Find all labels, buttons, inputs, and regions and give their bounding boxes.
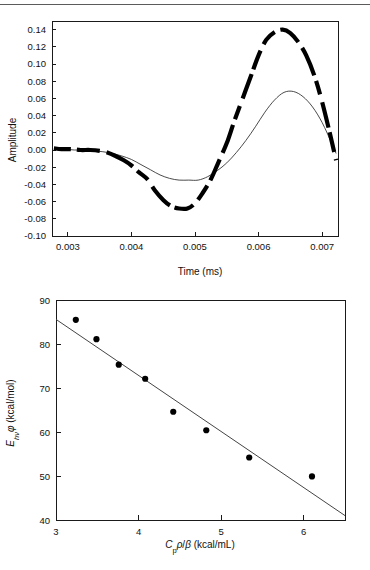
bottom-chart-ticks [56,300,304,520]
bottom-chart-xaxis-title: Cpρ/β (kcal/mL) [165,539,235,555]
top-chart-tick-labels: -0.10-0.08-0.06-0.04-0.020.000.020.040.0… [24,24,334,252]
svg-text:0.14: 0.14 [28,24,47,35]
bottom-chart-yaxis-title: Ehνφ (kcal/mol) [5,379,21,446]
figure-amplitude-vs-time: -0.10-0.08-0.06-0.04-0.020.000.020.040.0… [0,10,370,285]
svg-text:0.003: 0.003 [56,241,80,252]
svg-text:-0.04: -0.04 [24,179,46,190]
svg-text:0.12: 0.12 [28,41,47,52]
svg-text:-0.10: -0.10 [24,230,46,241]
top-chart-curves [54,30,336,209]
svg-text:6: 6 [301,526,306,537]
figure-page: -0.10-0.08-0.06-0.04-0.020.000.020.040.0… [0,0,370,570]
bottom-chart-tick-labels: 4050607080903456 [39,295,306,537]
svg-text:5: 5 [218,526,223,537]
svg-text:3: 3 [53,526,58,537]
top-chart-axes [52,21,338,236]
svg-text:-0.06: -0.06 [24,196,46,207]
svg-text:60: 60 [39,427,50,438]
chart-ehvphi-vs-cprhobeta: 4050607080903456 Cpρ/β (kcal/mL) Ehνφ (k… [0,288,370,563]
top-chart-ticks [52,30,322,236]
bottom-chart-fit-line [56,319,345,515]
svg-text:0.004: 0.004 [120,241,144,252]
top-chart-xaxis-title: Time (ms) [178,266,223,277]
svg-text:4: 4 [136,526,141,537]
svg-text:90: 90 [39,295,50,306]
bottom-chart-axes [56,300,345,520]
svg-text:0.06: 0.06 [28,93,47,104]
svg-text:0.04: 0.04 [28,110,47,121]
figure-ehvphi-vs-cprhobeta: 4050607080903456 Cpρ/β (kcal/mL) Ehνφ (k… [0,288,370,563]
top-chart-yaxis-title: Amplitude [7,117,18,162]
svg-text:0.08: 0.08 [28,76,47,87]
bottom-chart-datapoints [73,317,315,480]
svg-text:40: 40 [39,515,50,526]
page-top-divider [0,4,370,5]
svg-text:-0.08: -0.08 [24,213,46,224]
svg-text:0.005: 0.005 [183,241,207,252]
svg-text:80: 80 [39,339,50,350]
svg-text:50: 50 [39,471,50,482]
svg-text:0.006: 0.006 [247,241,271,252]
svg-text:0.007: 0.007 [310,241,334,252]
svg-text:70: 70 [39,383,50,394]
svg-text:0.02: 0.02 [28,127,47,138]
svg-text:0.10: 0.10 [28,58,47,69]
svg-text:-0.02: -0.02 [24,162,46,173]
svg-text:0.00: 0.00 [28,144,47,155]
chart-amplitude-vs-time: -0.10-0.08-0.06-0.04-0.020.000.020.040.0… [0,10,370,285]
